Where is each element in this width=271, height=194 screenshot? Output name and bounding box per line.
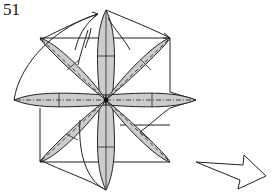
star-diagram [0,0,271,194]
origami-diagram: 51 [0,0,271,194]
center-point [104,98,108,102]
next-step-arrow-icon [196,155,266,189]
